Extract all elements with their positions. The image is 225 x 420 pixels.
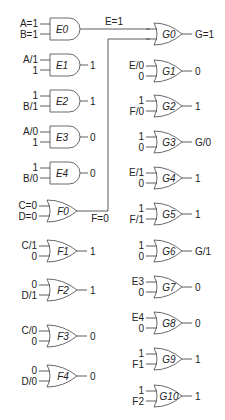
input-label: 0 (31, 365, 37, 376)
input-label: D=0 (18, 211, 37, 222)
gate-name: G4 (162, 173, 176, 184)
input-label: E/1 (129, 167, 144, 178)
output-label: 0 (90, 331, 96, 342)
output-label: 1 (195, 173, 201, 184)
input-label: B/1 (23, 101, 38, 112)
gate-name: E4 (56, 168, 69, 179)
input-label: 1 (32, 162, 38, 173)
input-label: B/0 (23, 173, 38, 184)
output-label: 0 (195, 318, 201, 329)
input-label: F2 (132, 396, 144, 407)
input-label: 1 (32, 137, 38, 148)
input-label: 0 (138, 178, 144, 189)
gate-name: G6 (162, 246, 176, 257)
and-gate-e0: E0 (40, 18, 80, 40)
gate-name: G3 (162, 137, 176, 148)
output-label: 0 (90, 132, 96, 143)
output-label: 1 (195, 354, 201, 365)
input-label: 1 (138, 95, 144, 106)
gate-name: G7 (162, 282, 176, 293)
gate-name: F3 (57, 331, 69, 342)
gate-name: F1 (57, 246, 69, 257)
output-label: G=1 (195, 29, 215, 40)
input-label: 0 (138, 71, 144, 82)
output-label: 0 (195, 282, 201, 293)
input-label: E3 (132, 276, 145, 287)
output-label: 1 (195, 391, 201, 402)
gate-name: G8 (162, 318, 176, 329)
gate-name: G2 (162, 101, 176, 112)
gate-name: F2 (57, 285, 69, 296)
f-output-label: F=0 (91, 213, 109, 224)
input-label: D/1 (21, 290, 37, 301)
input-label: 0 (31, 279, 37, 290)
gate-name: E2 (56, 96, 69, 107)
input-label: E/0 (129, 60, 144, 71)
circuit-svg: E0A=1B=1E1A/111E21B/11E3A/010E41B/00F0C=… (0, 0, 225, 420)
input-label: 0 (138, 142, 144, 153)
gate-name: F0 (57, 206, 69, 217)
input-label: F/0 (130, 106, 145, 117)
gate-name: E1 (56, 60, 68, 71)
gate-name: F4 (57, 371, 69, 382)
input-label: F1 (132, 359, 144, 370)
and-gate-e2: E2 (40, 90, 80, 112)
input-label: A=1 (20, 18, 39, 29)
output-label: 1 (195, 209, 201, 220)
input-label: 1 (138, 348, 144, 359)
input-label: 1 (32, 65, 38, 76)
gate-name: G0 (162, 29, 176, 40)
output-label: 1 (90, 96, 96, 107)
and-gate-e4: E4 (40, 162, 80, 184)
input-label: 1 (138, 385, 144, 396)
gate-name: G1 (162, 66, 175, 77)
input-label: C/0 (21, 325, 37, 336)
output-label: 0 (195, 66, 201, 77)
output-label: 1 (90, 285, 96, 296)
output-label: 1 (90, 246, 96, 257)
input-label: 0 (138, 251, 144, 262)
input-label: 0 (31, 336, 37, 347)
logic-circuit-diagram: E0A=1B=1E1A/111E21B/11E3A/010E41B/00F0C=… (0, 0, 225, 420)
input-label: D/0 (21, 376, 37, 387)
input-label: F/1 (130, 214, 145, 225)
input-label: B=1 (20, 29, 39, 40)
input-label: 0 (31, 251, 37, 262)
output-label: 1 (195, 101, 201, 112)
input-label: 0 (138, 323, 144, 334)
input-label: C=0 (18, 200, 37, 211)
gate-name: G5 (162, 209, 176, 220)
gate-name: E3 (56, 132, 69, 143)
input-label: A/1 (23, 54, 38, 65)
output-label: 0 (90, 371, 96, 382)
and-gate-e1: E1 (40, 54, 80, 76)
output-label: 0 (90, 168, 96, 179)
input-label: C/1 (21, 240, 37, 251)
e-output-label: E=1 (105, 16, 124, 27)
gate-name: G9 (162, 354, 176, 365)
input-label: E4 (132, 312, 145, 323)
output-label: G/0 (195, 137, 212, 148)
output-label: 1 (90, 60, 96, 71)
gate-name: E0 (56, 24, 69, 35)
input-label: 1 (32, 90, 38, 101)
gate-name: G10 (160, 391, 179, 402)
output-label: G/1 (195, 246, 212, 257)
input-label: A/0 (23, 126, 38, 137)
and-gate-e3: E3 (40, 126, 80, 148)
input-label: 1 (138, 203, 144, 214)
input-label: 0 (138, 287, 144, 298)
input-label: 1 (138, 131, 144, 142)
input-label: 1 (138, 240, 144, 251)
